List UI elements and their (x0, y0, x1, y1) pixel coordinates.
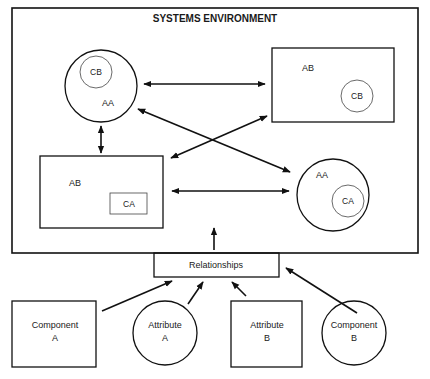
arrow-aa-aa-diagonal (138, 109, 290, 172)
input-label-line1: Attribute (250, 320, 284, 330)
node-label: AB (302, 63, 314, 73)
node-top-right-rect: AB CB (272, 48, 394, 122)
inner-label: CB (90, 67, 102, 77)
node-label: AA (102, 98, 114, 108)
relationships-label: Relationships (189, 260, 244, 270)
arrow-component-b (286, 268, 357, 313)
arrow-ab-ab-diagonal (171, 116, 267, 158)
input-label-line2: B (351, 333, 357, 343)
systems-environment-box: SYSTEMS ENVIRONMENT (12, 8, 418, 253)
input-label-line1: Component (32, 320, 79, 330)
input-label-line1: Component (331, 320, 378, 330)
input-attribute-b: Attribute B (231, 301, 302, 367)
node-label: AA (316, 170, 328, 180)
arrow-attribute-a (188, 282, 203, 304)
relationships-box: Relationships (154, 228, 279, 277)
inner-label: CB (351, 91, 363, 101)
node-bottom-right-circle: AA CA (297, 159, 369, 231)
node-top-left-circle: CB AA (65, 50, 137, 122)
input-arrows (102, 268, 357, 313)
systems-diagram: SYSTEMS ENVIRONMENT CB AA AB CB AB CA AA… (0, 0, 430, 379)
input-label-line2: A (52, 333, 58, 343)
input-label-line1: Attribute (148, 320, 182, 330)
input-component-a: Component A (12, 301, 96, 367)
arrow-component-a (102, 281, 172, 311)
arrow-attribute-b (232, 282, 246, 296)
input-label-line2: A (162, 333, 168, 343)
node-label: AB (69, 178, 81, 188)
inner-label: CA (123, 199, 135, 209)
diagram-title: SYSTEMS ENVIRONMENT (153, 13, 277, 24)
node-bottom-left-rect: AB CA (40, 156, 163, 228)
input-label-line2: B (264, 333, 270, 343)
environment-arrows (101, 84, 290, 191)
input-attribute-a: Attribute A (133, 301, 197, 365)
inner-label: CA (342, 196, 354, 206)
